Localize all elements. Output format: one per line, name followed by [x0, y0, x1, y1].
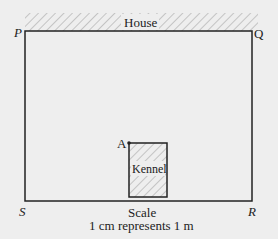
scale-text: 1 cm represents 1 m: [89, 219, 194, 232]
vertex-s-label: S: [19, 205, 26, 218]
kennel-label: Kennel: [132, 163, 167, 175]
vertex-p-label: P: [14, 26, 22, 39]
house-label: House: [124, 16, 157, 29]
vertex-r-label: R: [248, 205, 256, 218]
garden-plan-diagram: [0, 0, 278, 239]
point-a-label: A: [117, 137, 126, 150]
point-a-dot: [127, 141, 131, 145]
vertex-q-label: Q: [254, 27, 263, 40]
